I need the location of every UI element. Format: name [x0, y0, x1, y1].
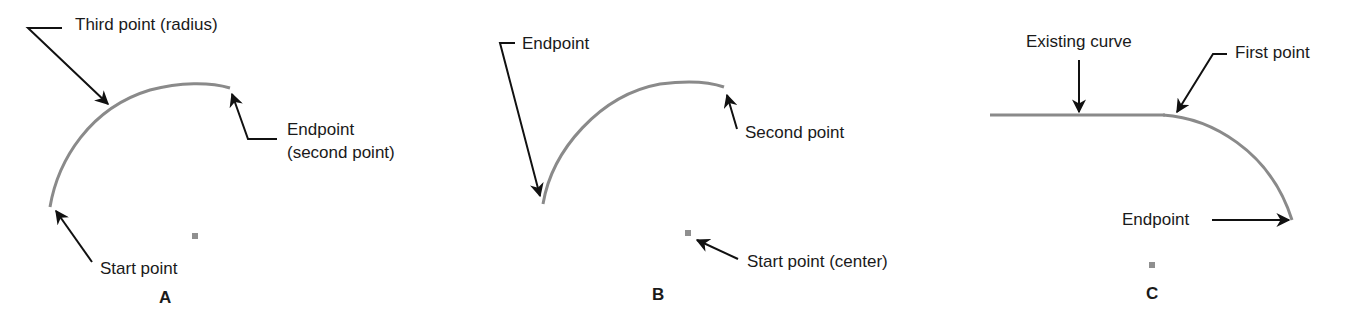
leader-start-point-b	[697, 240, 738, 259]
label-start-point-b: Start point (center)	[747, 252, 888, 272]
arc-a	[50, 84, 230, 207]
label-first-point-c: First point	[1235, 43, 1310, 63]
arc-b	[543, 82, 724, 204]
panel-b-graphics	[500, 43, 738, 259]
label-existing-curve-c: Existing curve	[1026, 32, 1132, 52]
figure-graphics	[0, 0, 1354, 326]
label-start-point-a: Start point	[100, 259, 178, 279]
caption-c: C	[1146, 284, 1158, 304]
caption-a: A	[159, 288, 171, 308]
panel-c-graphics	[990, 54, 1292, 268]
label-endpoint-c: Endpoint	[1122, 210, 1189, 230]
leader-endpoint-a	[232, 94, 277, 139]
panel-a-graphics	[28, 28, 277, 262]
leader-third-point-a	[28, 28, 108, 104]
label-second-point-b: Second point	[745, 123, 844, 143]
center-point-a	[192, 233, 198, 239]
label-third-point-a: Third point (radius)	[75, 15, 218, 35]
leader-start-point-a	[56, 211, 92, 262]
leader-endpoint-b	[500, 43, 540, 196]
leader-first-point-c	[1177, 54, 1227, 112]
caption-b: B	[652, 285, 664, 305]
label-endpoint-b: Endpoint	[522, 34, 589, 54]
label-endpoint-a-line2: (second point)	[287, 143, 395, 163]
label-endpoint-a-line1: Endpoint	[287, 120, 354, 140]
center-point-b	[685, 230, 691, 236]
arc-c	[1163, 115, 1292, 220]
leader-second-point-b	[727, 95, 737, 129]
center-point-c	[1149, 262, 1155, 268]
arc-construction-figure: Third point (radius) Endpoint (second po…	[0, 0, 1354, 326]
